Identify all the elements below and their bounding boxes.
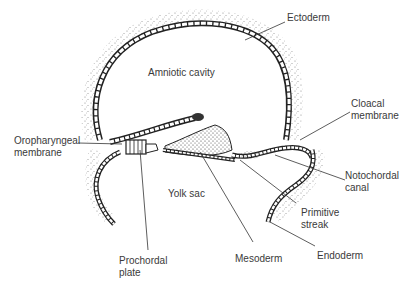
label-notochordal-canal-1: Notochordal — [345, 170, 399, 182]
label-ectoderm: Ectoderm — [287, 12, 330, 24]
label-cloacal-membrane-1: Cloacal — [351, 98, 384, 110]
label-mesoderm: Mesoderm — [235, 253, 282, 265]
label-primitive-streak-2: streak — [301, 219, 328, 231]
embryo-diagram: Ectoderm Amniotic cavity Cloacal membran… — [0, 0, 415, 288]
label-endoderm: Endoderm — [317, 250, 363, 262]
label-yolk-sac: Yolk sac — [168, 188, 205, 200]
fold-tip — [192, 113, 204, 121]
label-amniotic-cavity: Amniotic cavity — [148, 67, 215, 79]
label-primitive-streak-1: Primitive — [301, 207, 339, 219]
label-oropharyngeal-membrane-2: membrane — [14, 147, 62, 159]
label-cloacal-membrane-2: membrane — [351, 110, 399, 122]
label-prochordal-plate-2: plate — [119, 267, 141, 279]
prochordal-plate-block — [126, 140, 146, 154]
label-prochordal-plate-1: Prochordal — [119, 255, 167, 267]
label-notochordal-canal-2: canal — [345, 182, 369, 194]
label-oropharyngeal-membrane-1: Oropharyngeal — [14, 135, 80, 147]
